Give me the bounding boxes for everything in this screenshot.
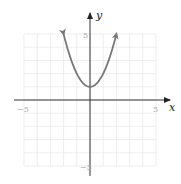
y-axis-label: y [95, 9, 103, 22]
x-tick-min-label: −5 [17, 105, 29, 114]
x-axis-label: x [169, 101, 176, 114]
y-tick-min-label: −5 [80, 163, 92, 172]
y-tick-max-label: 5 [83, 31, 88, 40]
x-tick-max-label: 5 [153, 105, 158, 114]
graph-canvas: −5 5 5 −5 x y [0, 0, 181, 184]
